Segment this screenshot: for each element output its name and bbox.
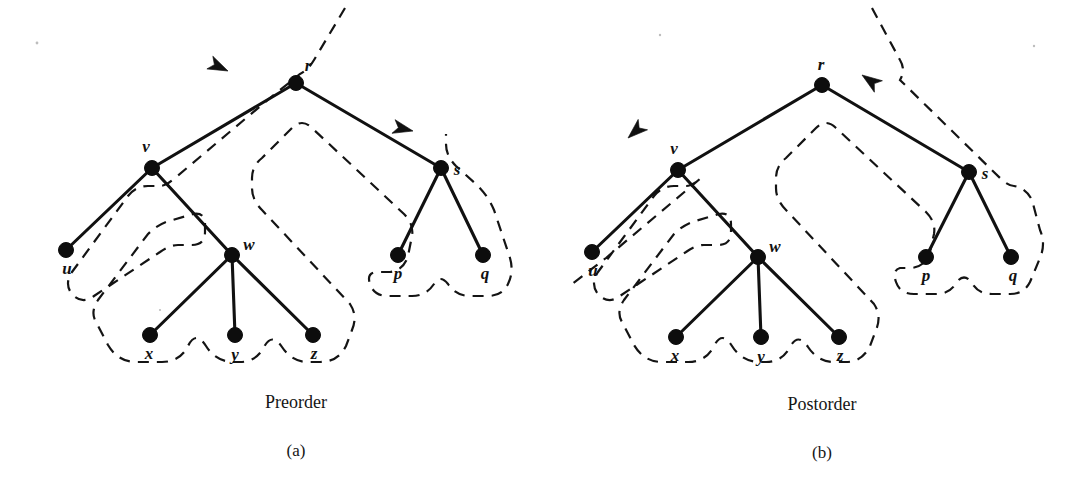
tree-node-w[interactable] [225, 248, 240, 263]
node-label-y: y [755, 347, 765, 366]
scan-speck [659, 34, 661, 36]
node-label-z: z [836, 346, 844, 365]
tree-node-s[interactable] [434, 161, 449, 176]
node-label-x: x [144, 344, 154, 363]
node-label-y: y [229, 345, 239, 364]
node-label-r: r [818, 55, 825, 74]
figure-container: rvsuwpqxyz Preorder (a) rvsuwpqxyz Posto… [0, 0, 1067, 503]
node-label-w: w [769, 237, 781, 256]
tree-node-y[interactable] [228, 328, 243, 343]
tree-node-u[interactable] [585, 245, 600, 260]
tree-node-p[interactable] [391, 248, 406, 263]
node-label-z: z [310, 344, 318, 363]
node-label-u: u [588, 261, 597, 280]
euler-tour-figure: rvsuwpqxyz Preorder (a) rvsuwpqxyz Posto… [0, 0, 1067, 503]
tree-node-q[interactable] [1004, 250, 1019, 265]
tree-node-v[interactable] [671, 163, 686, 178]
node-label-q: q [481, 264, 490, 283]
scan-speck [36, 42, 39, 45]
tree-node-p[interactable] [919, 250, 934, 265]
node-label-r: r [305, 56, 312, 75]
node-label-p: p [920, 266, 931, 285]
node-label-w: w [243, 235, 255, 254]
tree-node-q[interactable] [476, 248, 491, 263]
node-label-p: p [392, 264, 403, 283]
node-label-v: v [670, 139, 678, 158]
tree-node-y[interactable] [754, 330, 769, 345]
scan-speck [159, 309, 161, 311]
node-label-s: s [453, 160, 461, 179]
scan-speck [1033, 45, 1035, 47]
tree-node-s[interactable] [962, 165, 977, 180]
tree-node-z[interactable] [832, 330, 847, 345]
tree-node-x[interactable] [143, 328, 158, 343]
tree-node-x[interactable] [669, 330, 684, 345]
tree-node-u[interactable] [59, 243, 74, 258]
node-label-u: u [62, 259, 71, 278]
tree-node-r[interactable] [289, 76, 304, 91]
node-label-s: s [981, 164, 989, 183]
node-label-x: x [670, 346, 680, 365]
tree-node-r[interactable] [815, 78, 830, 93]
node-label-q: q [1009, 266, 1018, 285]
panel-caption-postorder: Postorder [788, 394, 857, 414]
tree-node-v[interactable] [145, 161, 160, 176]
panel-caption-preorder: Preorder [265, 392, 327, 412]
tree-node-z[interactable] [306, 328, 321, 343]
panel-subcaption-a: (a) [287, 441, 306, 460]
tree-node-w[interactable] [751, 250, 766, 265]
panel-subcaption-b: (b) [812, 443, 832, 462]
node-label-v: v [142, 137, 150, 156]
